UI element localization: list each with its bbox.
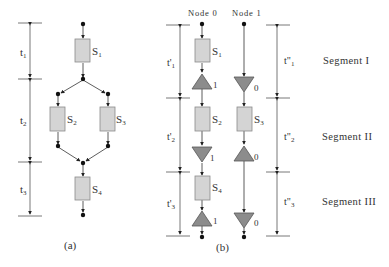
fork-node — [81, 77, 85, 81]
diagram-canvas: t1 t2 t3 — [0, 0, 389, 267]
node-0-header: Node 0 — [188, 8, 218, 18]
node-0-send-triangle-1 — [192, 74, 212, 89]
node-1-comm-1-label: 0 — [254, 83, 259, 93]
task-s3-label: S3 — [116, 113, 126, 127]
panel-b-caption: (b) — [216, 241, 229, 254]
node-0-comm-3-label: 1 — [213, 216, 218, 226]
join-node — [81, 161, 85, 165]
node-1-recv-triangle-3 — [234, 213, 254, 228]
node-1-recv-triangle-1 — [234, 77, 254, 92]
node-0-comm-2-label: 1 — [210, 153, 215, 163]
interval-t3-prime-label: t'3 — [167, 198, 176, 211]
node-0-end — [200, 235, 204, 239]
interval-t1-label: t1 — [20, 46, 27, 60]
node-0-s1-label: S1 — [212, 45, 222, 59]
node-0-s2-label: S2 — [212, 113, 222, 127]
node-1-s3-label: S3 — [254, 113, 264, 127]
node-1-comm-3-label: 0 — [254, 218, 259, 228]
interval-t2-prime-label: t'2 — [167, 131, 176, 144]
interval-t3-dprime-label: t"3 — [284, 196, 295, 209]
node-1-end — [242, 235, 246, 239]
task-box-s3 — [100, 107, 115, 131]
panel-a-caption: (a) — [64, 239, 77, 252]
node-0-s4-label: S4 — [212, 181, 222, 195]
node-0-task-s1 — [195, 39, 210, 62]
node-1-send-triangle-2 — [234, 146, 254, 161]
node-0-send-triangle-3 — [192, 211, 212, 226]
task-box-s4 — [75, 177, 90, 200]
task-box-s1 — [75, 39, 90, 62]
start-node — [81, 22, 85, 26]
task-s1-label: S1 — [92, 45, 102, 59]
end-node — [81, 213, 85, 217]
panel-a: t1 t2 t3 — [18, 22, 126, 252]
branch-node — [106, 144, 110, 148]
interval-t1-dprime-label: t"1 — [284, 55, 295, 68]
panel-b: Node 0 Node 1 t'1 t'2 t'3 t"1 t"2 t"3 — [166, 8, 376, 254]
task-s4-label: S4 — [92, 183, 102, 197]
interval-t2-label: t2 — [20, 114, 27, 128]
node-0-start — [200, 22, 204, 26]
node-0-comm-1-label: 1 — [213, 80, 218, 90]
task-box-s2 — [50, 107, 65, 131]
interval-t3-label: t3 — [20, 183, 27, 197]
segment-2-label: Segment II — [322, 131, 372, 142]
branch-node — [56, 144, 60, 148]
branch-node — [106, 92, 110, 96]
node-1-task-s3 — [237, 107, 252, 131]
node-0-recv-triangle-2 — [192, 147, 212, 162]
task-s2-label: S2 — [67, 113, 77, 127]
node-1-start — [242, 22, 246, 26]
node-1-header: Node 1 — [232, 8, 262, 18]
node-1-comm-2-label: 0 — [254, 152, 259, 162]
interval-t2-dprime-label: t"2 — [284, 131, 295, 144]
branch-node — [56, 92, 60, 96]
segment-1-label: Segment I — [323, 55, 370, 66]
node-0-task-s4 — [195, 176, 210, 200]
interval-t1-prime-label: t'1 — [167, 57, 176, 70]
segment-3-label: Segment III — [322, 196, 376, 207]
node-0-task-s2 — [195, 107, 210, 131]
